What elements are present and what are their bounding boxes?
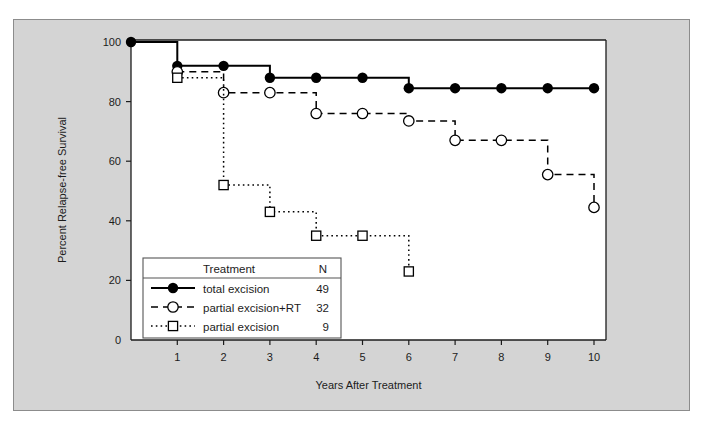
y-axis-tick-label: 20 [109,274,121,286]
y-axis-tick-label: 60 [109,155,121,167]
legend-series-label: partial excision+RT [203,302,301,314]
data-point-filled-circle [357,73,367,83]
data-point-open-square [358,231,367,240]
data-point-filled-circle [543,83,553,93]
data-point-filled-circle [168,283,178,293]
y-axis-title: Percent Relapse-free Survival [56,117,68,263]
x-axis-tick-label: 4 [313,351,319,363]
x-axis-tick-label: 9 [545,351,551,363]
legend-header-n: N [319,263,327,275]
data-point-filled-circle [404,83,414,93]
legend-series-label: partial excision [203,321,279,333]
data-point-filled-circle [265,73,275,83]
legend-series-label: total excision [203,283,269,295]
x-axis-tick-label: 5 [359,351,365,363]
x-axis-tick-label: 8 [498,351,504,363]
data-point-open-square [265,207,274,216]
legend-series-n: 49 [316,283,329,295]
data-point-open-circle [496,135,506,145]
data-point-filled-circle [450,83,460,93]
data-point-open-circle [311,108,321,118]
data-point-open-circle [589,202,599,212]
legend: TreatmentNtotal excision49partial excisi… [143,258,341,338]
legend-series-n: 32 [316,302,329,314]
x-axis-tick-label: 2 [221,351,227,363]
data-point-open-square [219,180,228,189]
data-point-filled-circle [218,61,228,71]
data-point-open-circle [450,135,460,145]
data-point-filled-circle [126,37,136,47]
data-point-filled-circle [496,83,506,93]
x-axis-tick-label: 3 [267,351,273,363]
y-axis-tick-label: 0 [115,334,121,346]
legend-header-treatment: Treatment [203,263,256,275]
x-axis-tick-label: 7 [452,351,458,363]
survival-chart: 02040608010012345678910Years After Treat… [0,0,703,431]
data-point-open-circle [168,302,178,312]
data-point-open-circle [543,169,553,179]
data-point-open-square [173,73,182,82]
x-axis-tick-label: 1 [174,351,180,363]
data-point-open-square [312,231,321,240]
data-point-open-circle [265,87,275,97]
figure-container: 02040608010012345678910Years After Treat… [0,0,703,431]
y-axis-tick-label: 40 [109,215,121,227]
data-point-open-circle [357,108,367,118]
data-point-open-square [168,321,177,330]
data-point-filled-circle [311,73,321,83]
legend-series-n: 9 [323,321,329,333]
x-axis-tick-label: 6 [406,351,412,363]
data-point-open-circle [404,116,414,126]
y-axis-tick-label: 100 [103,36,121,48]
y-axis-tick-label: 80 [109,96,121,108]
x-axis-title: Years After Treatment [316,379,422,391]
data-point-open-circle [218,87,228,97]
data-point-open-square [404,267,413,276]
x-axis-tick-label: 10 [588,351,600,363]
data-point-filled-circle [589,83,599,93]
